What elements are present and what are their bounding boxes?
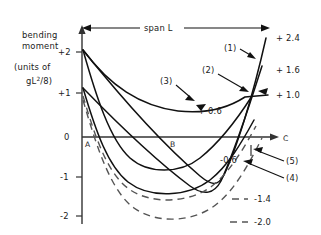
axis-label-line-4: gL2/8)	[26, 76, 52, 87]
value-label-plus-1-0: + 1.0	[276, 90, 300, 100]
span-arrow-right-head	[261, 25, 270, 32]
curve-4-path	[83, 50, 252, 170]
ytick-label-plus2: +2	[58, 47, 71, 57]
curve-id-1-arrowhead	[247, 52, 256, 59]
curve-id-3-leader	[176, 85, 190, 97]
curve-id-1: (1)	[224, 43, 236, 53]
axis-label-line-3: (units of	[14, 62, 51, 72]
curve-id-3: (3)	[160, 76, 172, 86]
span-label: span L	[144, 23, 173, 33]
support-label-c: C	[283, 134, 289, 143]
x-axis-arrowhead	[270, 133, 279, 140]
bending-moment-figure: bending moment (units of gL2/8) +2 +1 0 …	[0, 0, 321, 235]
ytick-label-plus1: +1	[58, 88, 71, 98]
curve-id-2: (2)	[202, 65, 214, 75]
curve-id-4-leader	[248, 163, 284, 178]
value-label-plus-1-6: + 1.6	[276, 65, 300, 75]
ytick-label-zero: 0	[64, 132, 70, 142]
plus-1-0-pointer-arrowhead	[258, 88, 268, 95]
support-label-b: B	[170, 140, 175, 149]
axis-label-line-2: moment	[22, 41, 59, 51]
value-label-minus-2-0: -2.0	[254, 217, 271, 227]
value-label-minus-0-6: -0.6	[220, 155, 237, 165]
curve-5-solid-path	[83, 88, 254, 194]
support-label-a: A	[85, 140, 91, 149]
y-axis-arrowhead	[78, 25, 85, 34]
ytick-label-minus2: -2	[60, 211, 69, 221]
axis-label-gl: gL	[26, 76, 37, 86]
value-label-minus-1-4: -1.4	[254, 194, 271, 204]
curve-id-2-leader	[218, 74, 244, 89]
value-label-plus-2-4: + 2.4	[276, 33, 300, 43]
curve-id-5-leader	[258, 151, 284, 161]
curve-id-4: (4)	[286, 173, 298, 183]
curve-id-3-arrowhead	[185, 95, 195, 101]
curve-3-path	[83, 50, 268, 112]
curve-id-5: (5)	[286, 156, 298, 166]
axis-label-denom: /8)	[40, 76, 52, 86]
ytick-label-minus1: -1	[60, 172, 69, 182]
axis-label-line-1: bending	[22, 30, 57, 40]
